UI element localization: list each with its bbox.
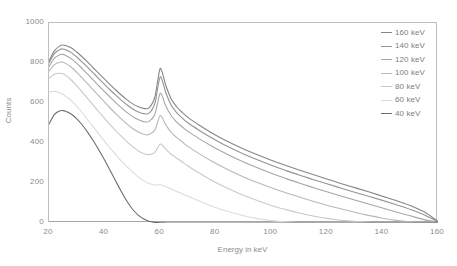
legend-line-icon [381,46,392,47]
y-tick-label: 0 [4,218,44,226]
series-line [49,91,438,223]
legend: 160 keV140 keV120 keV100 keV80 keV60 keV… [381,26,443,121]
y-tick-label: 800 [4,58,44,66]
legend-item[interactable]: 120 keV [381,53,443,67]
legend-line-icon [381,73,392,74]
legend-line-icon [381,32,392,33]
x-axis-ticks: 20406080100120140160 [48,228,437,240]
series-line [49,62,438,223]
legend-line-icon [381,113,392,114]
x-tick-label: 140 [361,228,401,236]
legend-line-icon [381,59,392,60]
legend-label: 120 keV [395,56,425,64]
series-line [49,73,438,223]
series-line [49,110,438,223]
x-tick-label: 100 [250,228,290,236]
legend-label: 60 keV [395,96,421,104]
legend-label: 80 keV [395,83,421,91]
x-tick-label: 60 [139,228,179,236]
legend-item[interactable]: 140 keV [381,40,443,54]
x-tick-label: 20 [28,228,68,236]
legend-label: 160 keV [395,29,425,37]
spectrum-curves [49,23,438,223]
plot-area [48,22,437,222]
legend-label: 40 keV [395,110,421,118]
legend-label: 140 keV [395,42,425,50]
y-axis-title: Counts [4,81,13,141]
legend-item[interactable]: 100 keV [381,67,443,81]
legend-item[interactable]: 40 keV [381,107,443,121]
x-tick-label: 80 [195,228,235,236]
legend-line-icon [381,100,392,101]
legend-line-icon [381,86,392,87]
x-tick-label: 120 [306,228,346,236]
legend-item[interactable]: 60 keV [381,94,443,108]
y-tick-label: 1000 [4,18,44,26]
legend-item[interactable]: 80 keV [381,80,443,94]
legend-label: 100 keV [395,69,425,77]
y-tick-label: 200 [4,178,44,186]
legend-item[interactable]: 160 keV [381,26,443,40]
x-axis-title: Energy in keV [48,245,437,254]
series-line [49,54,438,222]
x-tick-label: 40 [84,228,124,236]
xray-spectrum-chart: 10008006004002000 20406080100120140160 E… [0,0,457,266]
x-tick-label: 160 [417,228,457,236]
